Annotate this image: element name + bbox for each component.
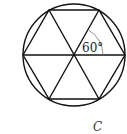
hexagon-in-circle-diagram: 60° C [0, 0, 127, 134]
angle-label: 60° [82, 41, 103, 55]
figure-caption: C [93, 120, 102, 134]
